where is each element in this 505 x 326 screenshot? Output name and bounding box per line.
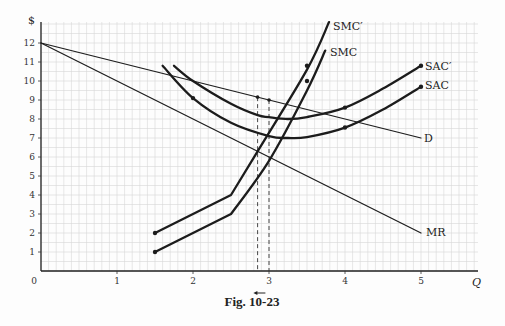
curve-labels: SMC′SMCSAC′SACDMR (330, 20, 452, 239)
label-smc: SMC (330, 46, 357, 59)
y-tick-label: 5 (29, 171, 35, 181)
x-tick-label: 3 (266, 276, 272, 286)
y-tick-label: 8 (29, 114, 35, 124)
y-tick-label: 11 (24, 57, 35, 67)
curves (41, 22, 423, 295)
y-axis-label: $ (28, 14, 35, 27)
y-tick-label: 2 (29, 228, 35, 238)
y-tick-label: 6 (29, 152, 35, 162)
y-tick-label: 4 (29, 190, 35, 200)
label-sac-prime: SAC′ (425, 60, 452, 73)
y-tick-label: 1 (29, 247, 35, 257)
x-tick-label: 1 (114, 276, 120, 286)
data-point-marker (343, 125, 347, 129)
cost-revenue-chart: 123456789101112$012345Q SMC′SMCSAC′SACDM… (0, 0, 505, 326)
label-sac: SAC (425, 79, 449, 92)
label-demand: D (424, 132, 433, 145)
data-point-marker (153, 250, 157, 254)
x-tick-label: 5 (418, 276, 424, 286)
x-axis-label: Q (472, 276, 481, 289)
y-tick-label: 9 (29, 95, 35, 105)
data-point-marker (419, 64, 423, 68)
figure-caption: Fig. 10-23 (225, 294, 280, 309)
label-mr: MR (426, 226, 446, 239)
y-tick-label: 7 (29, 133, 35, 143)
data-point-marker (153, 231, 157, 235)
y-tick-label: 12 (24, 38, 35, 48)
x-tick-label: 0 (31, 276, 37, 286)
data-point-marker (305, 64, 309, 68)
data-point-marker (343, 105, 347, 109)
x-tick-label: 2 (190, 276, 196, 286)
label-smc-prime: SMC′ (333, 20, 363, 33)
data-point-marker (191, 96, 195, 100)
y-tick-label: 3 (29, 209, 35, 219)
y-tick-label: 10 (24, 76, 36, 86)
x-tick-label: 4 (342, 276, 348, 286)
data-point-marker (419, 85, 423, 89)
data-point-marker (305, 79, 309, 83)
